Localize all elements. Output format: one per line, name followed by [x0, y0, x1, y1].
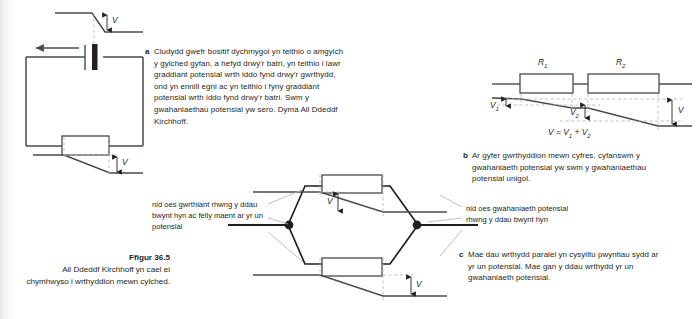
diagram-b-resistor-1 [520, 74, 573, 93]
r1-subscript: 1 [544, 62, 547, 69]
callout-no-pd: nid oes gwahaniaeth potensial rhwng y dd… [466, 203, 570, 225]
callout-no-resistance: nid oes gwrthiant rhwng y ddau bwynt hyn… [152, 199, 264, 233]
diagram-c-resistor-top [322, 175, 382, 193]
diagram-c-node-left [285, 221, 294, 230]
paragraph-a: a Cludydd gwefr bositif dychmygol yn tei… [154, 46, 344, 127]
equation-term-2-subscript: 2 [587, 132, 590, 139]
diagram-b-equation: V = V1 + V2 [548, 127, 591, 139]
diagram-b-v2-label: V2 [570, 107, 579, 119]
diagram-a-battery [85, 44, 98, 70]
diagram-c-branches [288, 186, 418, 264]
diagram-a-v-label-top: V [112, 15, 118, 25]
figure-caption-body: Ail Ddeddf Kirchhoff yn cael ei chymhwys… [27, 265, 171, 286]
diagram-a-potential-top [55, 13, 143, 32]
v1-subscript: 1 [496, 105, 499, 112]
diagram-b-v-total-label: V [678, 105, 684, 115]
diagram-a-circuit [26, 57, 143, 146]
paragraph-a-text: Cludydd gwefr bositif dychmygol yn teith… [154, 46, 344, 127]
r2-subscript: 2 [622, 62, 625, 69]
diagram-b-potential-line [492, 98, 692, 126]
diagram-c-v-label-bottom: V [416, 279, 422, 289]
diagram-b-dashed [497, 94, 684, 130]
diagram-c-v-label-top: V [327, 196, 333, 206]
equation-lhs: V [548, 127, 554, 137]
paragraph-c-marker: c [459, 249, 464, 261]
diagram-b-resistor-2 [588, 74, 659, 93]
paragraph-a-marker: a [145, 46, 150, 58]
paragraph-c-text: Mae dau wrthydd paralel yn cysylltu pwyn… [468, 249, 664, 284]
diagram-b-v1-label: V1 [490, 100, 499, 112]
figure-caption: Ffigur 36.5 Ail Ddeddf Kirchhoff yn cael… [24, 252, 170, 287]
diagram-c-potential-top [253, 192, 447, 212]
diagram-a-v-label-bottom: V [122, 157, 128, 167]
paragraph-b-text: Ar gyfer gwrthyddion mewn cyfres, cyfans… [472, 150, 657, 185]
equation-equals: = [556, 127, 561, 137]
figure-caption-title: Ffigur 36.5 [24, 252, 170, 264]
diagram-b-resistor-1-label: R1 [538, 57, 547, 69]
equation-term-1-subscript: 1 [569, 132, 572, 139]
paragraph-c: c Mae dau wrthydd paralel yn cysylltu pw… [468, 249, 664, 284]
v2-subscript: 2 [576, 112, 579, 119]
diagram-b-resistor-2-label: R2 [616, 57, 625, 69]
paragraph-b-marker: b [463, 150, 468, 162]
diagram-c-resistor-bottom [322, 258, 382, 276]
diagram-a-resistor [62, 136, 109, 155]
figure-page: a Cludydd gwefr bositif dychmygol yn tei… [0, 0, 700, 319]
equation-plus: + [574, 127, 579, 137]
paragraph-b: b Ar gyfer gwrthyddion mewn cyfres, cyfa… [472, 150, 657, 185]
diagram-c-node-right [413, 221, 422, 230]
